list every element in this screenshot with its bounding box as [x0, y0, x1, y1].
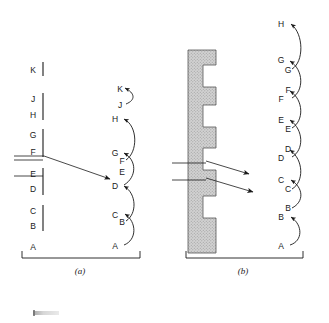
- panel-b: H G G F F E E D D C C B B A: [172, 19, 303, 276]
- scan-artifact: [33, 311, 59, 315]
- level-label: E: [285, 124, 291, 134]
- panel-b-right-levels: H G G F F E E D D C C B B A: [278, 19, 292, 251]
- level-label: A: [112, 241, 118, 251]
- panel-a: K J H G F E D C B A: [14, 62, 140, 276]
- level-label: H: [30, 110, 36, 120]
- panel-a-hop-arrows: [124, 88, 135, 245]
- level-label: B: [278, 212, 284, 222]
- level-label: C: [112, 210, 118, 220]
- level-label: B: [119, 217, 125, 227]
- level-label: B: [30, 221, 36, 231]
- hop-arrow: [124, 186, 134, 221]
- panel-b-hop-arrows: [290, 24, 301, 245]
- level-label: K: [117, 84, 123, 94]
- figure-root: K J H G F E D C B A: [0, 0, 329, 323]
- level-label: H: [112, 114, 118, 124]
- panel-a-lead-lines: [14, 160, 43, 176]
- hop-arrow: [290, 91, 301, 128]
- level-label: F: [30, 147, 35, 157]
- level-label: H: [278, 19, 284, 29]
- panel-a-bracket: [22, 251, 140, 258]
- level-label: C: [278, 175, 284, 185]
- level-label: F: [119, 156, 124, 166]
- level-label: F: [285, 85, 290, 95]
- panel-a-left-levels: K J H G F E D C B A: [30, 65, 37, 252]
- level-label: G: [112, 148, 119, 158]
- level-label: G: [278, 55, 285, 65]
- level-label: J: [31, 94, 35, 104]
- hop-arrow: [291, 180, 301, 208]
- level-label: A: [30, 242, 36, 252]
- level-label: E: [30, 169, 36, 179]
- level-label: G: [30, 130, 37, 140]
- panel-a-right-levels: K J H G F E D C B A: [112, 84, 125, 251]
- level-label: G: [285, 65, 292, 75]
- level-label: D: [285, 144, 291, 154]
- level-label: A: [278, 241, 284, 251]
- level-label: C: [285, 184, 291, 194]
- figure-canvas: K J H G F E D C B A: [0, 0, 329, 323]
- level-label: E: [278, 115, 284, 125]
- level-label: D: [112, 181, 118, 191]
- level-label: F: [278, 94, 283, 104]
- hop-arrow: [125, 88, 133, 104]
- scan-artifact-cap: [33, 310, 35, 316]
- panel-a-caption: (a): [75, 266, 86, 276]
- level-label: B: [285, 203, 291, 213]
- level-label: C: [30, 206, 36, 216]
- hop-arrow: [290, 217, 300, 245]
- stepped-crystal-block: [188, 50, 216, 253]
- level-label: D: [30, 184, 36, 194]
- level-label: J: [118, 100, 122, 110]
- level-label: D: [278, 153, 284, 163]
- level-label: K: [30, 65, 36, 75]
- panel-b-caption: (b): [238, 266, 249, 276]
- level-label: E: [119, 167, 125, 177]
- incident-flux-arrow: [14, 156, 110, 179]
